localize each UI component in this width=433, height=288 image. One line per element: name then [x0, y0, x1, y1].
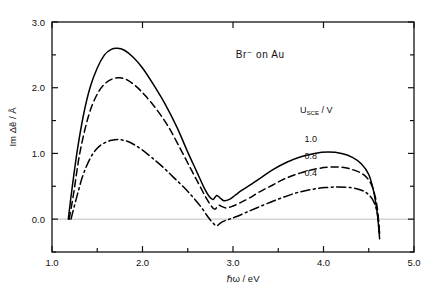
x-tick-label-5.0: 5.0	[407, 257, 420, 268]
y-tick-label-2.0: 2.0	[32, 82, 45, 93]
y-tick-label-3.0: 3.0	[32, 17, 45, 28]
curves-layer	[68, 48, 379, 239]
curve-0.8	[69, 78, 379, 236]
curve-value-label-1.0: 1.0	[305, 134, 318, 144]
legend-title: USCE / V	[300, 105, 333, 116]
x-tick-label-2.0: 2.0	[136, 257, 149, 268]
curve-1.0	[68, 48, 379, 239]
curve-value-label-0.4: 0.4	[305, 168, 318, 178]
x-tick-label-1.0: 1.0	[45, 257, 58, 268]
curve-value-label-0.8: 0.8	[305, 151, 318, 161]
y-axis-label: Im Δẽ / Å	[7, 107, 18, 147]
sample-label: Br⁻ on Au	[236, 49, 285, 60]
x-tick-label-3.0: 3.0	[226, 257, 239, 268]
y-tick-label-1.0: 1.0	[32, 148, 45, 159]
x-tick-label-4.0: 4.0	[317, 257, 330, 268]
figure-canvas: 1.02.03.04.05.00.01.02.03.0ℏω / eVIm Δẽ …	[0, 0, 433, 288]
y-tick-label-0.0: 0.0	[32, 214, 45, 225]
x-axis-label: ℏω / eV	[227, 273, 261, 284]
